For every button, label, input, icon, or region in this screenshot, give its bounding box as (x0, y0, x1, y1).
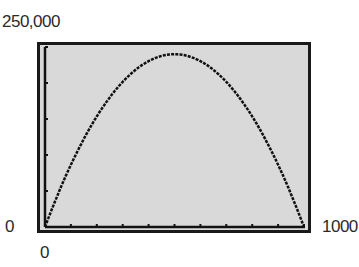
parabola-curve (45, 54, 304, 227)
y-axis-min-label: 0 (5, 218, 14, 235)
y-axis-max-label: 250,000 (2, 13, 60, 30)
plot-area (0, 0, 359, 267)
x-axis-max-label: 1000 (322, 218, 358, 235)
x-axis-min-label: 0 (40, 244, 49, 261)
